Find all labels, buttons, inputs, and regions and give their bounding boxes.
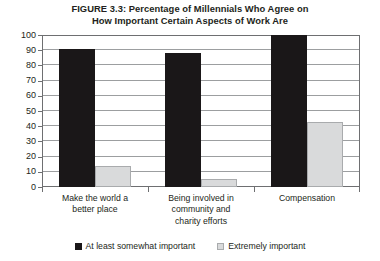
bar-2-2 (201, 179, 237, 187)
y-tick-label-40: 40 (0, 122, 36, 131)
x-tick-3 (359, 187, 360, 192)
y-tick-60 (38, 96, 42, 97)
x-axis-labels: Make the world abetter placeBeing involv… (42, 193, 360, 237)
y-tick-label-70: 70 (0, 76, 36, 85)
bars-layer (42, 35, 360, 187)
bar-3-1 (271, 35, 307, 187)
legend-entry-2[interactable]: Extremely important (217, 241, 305, 252)
y-tick-20 (38, 157, 42, 158)
figure-3-3-bar-chart: FIGURE 3.3: Percentage of Millennials Wh… (0, 0, 380, 261)
y-tick-30 (38, 141, 42, 142)
chart-title-line-1: FIGURE 3.3: Percentage of Millennials Wh… (18, 3, 362, 15)
y-tick-label-20: 20 (0, 152, 36, 161)
x-tick-2 (254, 187, 255, 192)
y-tick-90 (38, 50, 42, 51)
chart-title: FIGURE 3.3: Percentage of Millennials Wh… (18, 3, 362, 28)
y-tick-label-10: 10 (0, 167, 36, 176)
x-axis-label-1: Make the world abetter place (42, 193, 148, 216)
y-tick-label-0: 0 (0, 183, 36, 192)
legend-label-2: Extremely important (228, 241, 305, 252)
x-tick-0 (42, 187, 43, 192)
legend-entry-1[interactable]: At least somewhat important (75, 241, 196, 252)
y-tick-label-90: 90 (0, 46, 36, 55)
legend-swatch-icon-2 (217, 243, 224, 250)
bar-2-1 (165, 53, 201, 187)
x-axis-label-1-line-2: better place (42, 204, 148, 215)
bar-1-2 (95, 166, 131, 187)
bar-3-2 (307, 122, 343, 187)
legend-label-1: At least somewhat important (86, 241, 196, 252)
y-tick-80 (38, 65, 42, 66)
x-axis-label-2-line-2: community and (148, 204, 254, 215)
x-axis-label-2-line-1: Being involved in (148, 193, 254, 204)
y-tick-0 (38, 187, 42, 188)
x-axis-label-1-line-1: Make the world a (42, 193, 148, 204)
y-tick-label-80: 80 (0, 61, 36, 70)
chart-title-line-2: How Important Certain Aspects of Work Ar… (18, 15, 362, 27)
y-axis: 0102030405060708090100 (0, 35, 36, 187)
y-tick-label-50: 50 (0, 107, 36, 116)
y-tick-label-60: 60 (0, 91, 36, 100)
y-tick-50 (38, 111, 42, 112)
bar-1-1 (59, 49, 95, 187)
x-tick-1 (148, 187, 149, 192)
y-tick-label-100: 100 (0, 31, 36, 40)
x-axis-label-2-line-3: charity efforts (148, 216, 254, 227)
y-tick-100 (38, 35, 42, 36)
x-axis-label-3: Compensation (254, 193, 360, 204)
y-tick-10 (38, 172, 42, 173)
y-tick-40 (38, 126, 42, 127)
y-tick-label-30: 30 (0, 137, 36, 146)
x-axis-label-3-line-1: Compensation (254, 193, 360, 204)
x-axis-label-2: Being involved incommunity andcharity ef… (148, 193, 254, 227)
legend-swatch-icon-1 (75, 243, 82, 250)
y-tick-70 (38, 81, 42, 82)
x-axis-ticks (42, 187, 360, 192)
chart-legend: At least somewhat importantExtremely imp… (0, 241, 380, 252)
